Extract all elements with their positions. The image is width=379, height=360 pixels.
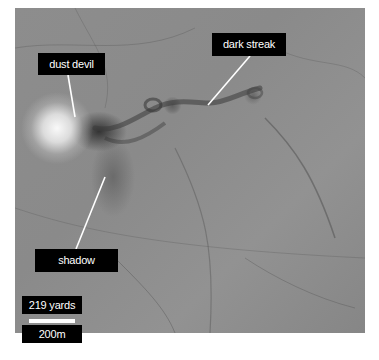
scale-imperial-label: 219 yards [22,296,82,314]
dark-streak-label-text: dark streak [223,39,275,50]
scale-imperial-text: 219 yards [29,300,76,311]
shadow-label: shadow [35,249,118,272]
dark-streak-label: dark streak [212,33,286,56]
scale-metric-label: 200m [22,325,82,343]
dust-devil-label: dust devil [38,53,105,75]
scale-bar [29,319,75,323]
dust-devil-label-text: dust devil [49,59,93,70]
scale-metric-text: 200m [39,329,66,340]
shadow-label-text: shadow [58,255,95,266]
